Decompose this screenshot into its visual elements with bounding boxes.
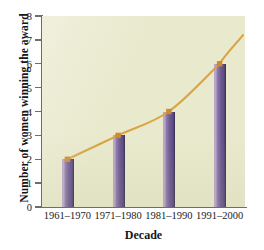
y-axis-tick bbox=[35, 15, 41, 16]
y-axis-tick bbox=[35, 87, 41, 88]
y-axis-tick-label: 5 bbox=[16, 82, 32, 93]
trend-line-series bbox=[42, 16, 245, 207]
data-point-marker bbox=[65, 157, 70, 162]
x-axis-title: Decade bbox=[42, 228, 245, 243]
y-axis-tick bbox=[35, 182, 41, 183]
x-axis-tick-labels: 1961–19701971–19801981–19901991–2000 bbox=[42, 210, 245, 226]
y-axis-tick bbox=[35, 39, 41, 40]
y-axis-tick-label: 7 bbox=[16, 34, 32, 45]
y-axis-tick bbox=[35, 111, 41, 112]
data-point-marker bbox=[217, 61, 222, 66]
y-axis-tick-label: 2 bbox=[16, 154, 32, 165]
data-point-marker bbox=[115, 133, 120, 138]
y-axis-tick-label: 4 bbox=[16, 106, 32, 117]
x-axis-tick-label: 1961–1970 bbox=[44, 210, 91, 221]
y-axis-tick-label: 6 bbox=[16, 58, 32, 69]
y-axis-tick bbox=[35, 135, 41, 136]
x-axis-tick-label: 1981–1990 bbox=[145, 210, 192, 221]
y-axis-tick-label: 1 bbox=[16, 178, 32, 189]
x-axis-tick-label: 1971–1980 bbox=[95, 210, 142, 221]
y-axis-tick bbox=[35, 159, 41, 160]
trend-line bbox=[67, 35, 243, 159]
y-axis-tick bbox=[35, 63, 41, 64]
data-point-marker bbox=[166, 109, 171, 114]
y-axis-tick bbox=[35, 206, 41, 207]
y-axis-tick-label: 0 bbox=[16, 202, 32, 213]
y-axis-tick-label: 8 bbox=[16, 11, 32, 22]
y-axis-tick-label: 3 bbox=[16, 130, 32, 141]
x-axis-tick-label: 1991–2000 bbox=[196, 210, 243, 221]
chart-figure: Number of women winning the award 012345… bbox=[0, 0, 264, 250]
plot-area bbox=[42, 16, 245, 207]
